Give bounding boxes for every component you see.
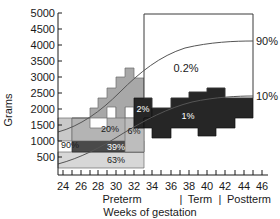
x-tick-label: 46 (256, 180, 268, 192)
x-tick-label: 28 (92, 180, 104, 192)
x-axis-title: Weeks of gestation (103, 206, 196, 218)
x-tick-label: 30 (110, 180, 122, 192)
y-tick-label: 500 (37, 151, 55, 163)
x-tick-label: 42 (219, 180, 231, 192)
segment-divider-1: | (180, 193, 183, 205)
y-tick-label: 5000 (31, 7, 55, 19)
x-tick-label: 40 (201, 180, 213, 192)
y-tick-label: 1000 (31, 135, 55, 147)
y-tick-label: 3500 (31, 55, 55, 67)
segment-label-postterm: Postterm (227, 193, 271, 205)
segment-label-term: Term (188, 193, 212, 205)
y-tick-label: 2500 (31, 87, 55, 99)
y-tick-label: 4500 (31, 23, 55, 35)
region-label-90: 90% (61, 140, 79, 150)
region-label-20: 20% (101, 124, 119, 134)
y-tick-label: 3000 (31, 71, 55, 83)
chart-figure: 5000 4500 4000 3500 3000 2500 2000 1500 … (0, 0, 280, 219)
segment-divider-2: | (219, 193, 222, 205)
y-axis-title: Grams (2, 93, 14, 127)
region-label-2: 2% (136, 104, 149, 114)
curve-label-10: 10% (256, 90, 278, 102)
region-label-63: 63% (107, 155, 125, 165)
x-tick-label: 34 (146, 180, 158, 192)
region-label-02: 0.2% (173, 62, 198, 74)
x-tick-label: 38 (183, 180, 195, 192)
x-tick-label: 26 (75, 180, 87, 192)
region-label-6: 6% (127, 126, 140, 136)
segment-label-preterm: Preterm (102, 193, 141, 205)
x-tick-label: 32 (128, 180, 140, 192)
y-tick-label: 4000 (31, 39, 55, 51)
y-tick-label: 2000 (31, 103, 55, 115)
curve-label-90: 90% (256, 35, 278, 47)
x-tick-label: 44 (238, 180, 250, 192)
x-tick-label: 24 (57, 180, 69, 192)
x-tick-label: 36 (165, 180, 177, 192)
y-tick-label: 1500 (31, 119, 55, 131)
region-label-39: 39% (107, 142, 125, 152)
birthweight-gestational-age-chart: 5000 4500 4000 3500 3000 2500 2000 1500 … (0, 0, 280, 219)
region-label-1: 1% (181, 111, 194, 121)
